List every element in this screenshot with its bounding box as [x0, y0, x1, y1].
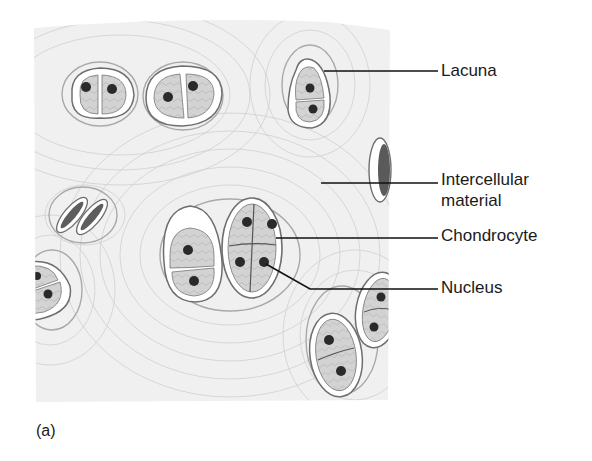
label-material: material [441, 191, 501, 211]
cell-nest-top-middle [146, 66, 222, 126]
cell-nest-central-right [222, 198, 282, 298]
label-chondrocyte: Chondrocyte [441, 226, 537, 246]
label-nucleus: Nucleus [441, 278, 502, 298]
cell-edge-right [369, 138, 391, 202]
label-lacuna: Lacuna [441, 61, 497, 81]
panel-label: (a) [36, 422, 56, 440]
label-intercellular: Intercellular [441, 170, 529, 190]
cell-nest-top-left [72, 68, 134, 118]
